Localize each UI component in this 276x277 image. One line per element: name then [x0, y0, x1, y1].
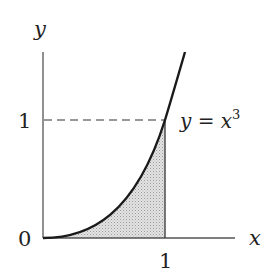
y-axis-label: y [33, 17, 47, 41]
y-tick-label-1: 1 [18, 109, 31, 133]
curve-label-exponent: 3 [232, 107, 240, 122]
x-tick-label-1: 1 [159, 249, 172, 273]
origin-label: 0 [18, 227, 31, 251]
curve-label-lhs: y = x [179, 109, 232, 133]
cubic-area-diagram: y x 0 1 1 y = x3 [0, 0, 276, 277]
curve-label: y = x3 [179, 107, 240, 133]
x-axis-label: x [249, 226, 261, 250]
